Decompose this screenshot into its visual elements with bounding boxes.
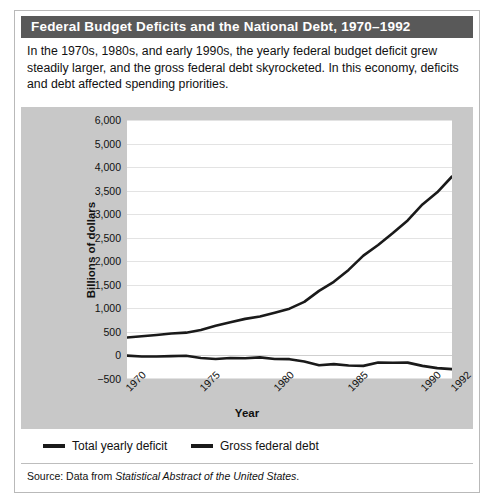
- figure-title-bar: Federal Budget Deficits and the National…: [21, 16, 473, 38]
- series-line: [127, 177, 452, 338]
- y-axis-tick: 4,000: [95, 161, 121, 173]
- chart-panel: Billions of dollars 6,0005,0004,0003,500…: [21, 107, 473, 429]
- legend-line-swatch: [191, 444, 213, 448]
- series-line: [127, 356, 452, 370]
- source-prefix: Source: Data from: [27, 470, 115, 482]
- y-axis-tick: 0: [115, 349, 121, 361]
- y-axis-tick: 5,000: [95, 138, 121, 150]
- y-axis-tick: 3,000: [95, 208, 121, 220]
- chart-legend: Total yearly deficitGross federal debt: [21, 435, 473, 461]
- y-axis-tick: 2,500: [95, 232, 121, 244]
- legend-item: Total yearly deficit: [43, 439, 167, 453]
- y-axis-tick-labels: 6,0005,0004,0003,5003,0002,5002,0001,500…: [21, 120, 121, 379]
- legend-item: Gross federal debt: [191, 439, 319, 453]
- plot-area: [127, 120, 452, 379]
- y-axis-tick: 500: [103, 326, 121, 338]
- y-axis-tick: 1,500: [95, 279, 121, 291]
- source-title: Statistical Abstract of the United State…: [115, 470, 296, 482]
- chart-svg: [127, 120, 452, 379]
- y-axis-tick: −500: [97, 373, 121, 385]
- figure-title: Federal Budget Deficits and the National…: [31, 19, 411, 34]
- footer-divider: [21, 463, 473, 464]
- y-axis-tick: 6,000: [95, 114, 121, 126]
- figure-source: Source: Data from Statistical Abstract o…: [27, 470, 299, 482]
- y-axis-tick: 3,500: [95, 185, 121, 197]
- legend-label: Total yearly deficit: [72, 439, 167, 453]
- y-axis-tick: 1,000: [95, 302, 121, 314]
- figure-description: In the 1970s, 1980s, and early 1990s, th…: [27, 43, 469, 93]
- figure-container: Federal Budget Deficits and the National…: [14, 10, 480, 493]
- y-axis-tick: 2,000: [95, 255, 121, 267]
- x-axis-title: Year: [21, 407, 473, 419]
- legend-line-swatch: [43, 444, 65, 448]
- legend-label: Gross federal debt: [220, 439, 319, 453]
- source-suffix: .: [296, 470, 299, 482]
